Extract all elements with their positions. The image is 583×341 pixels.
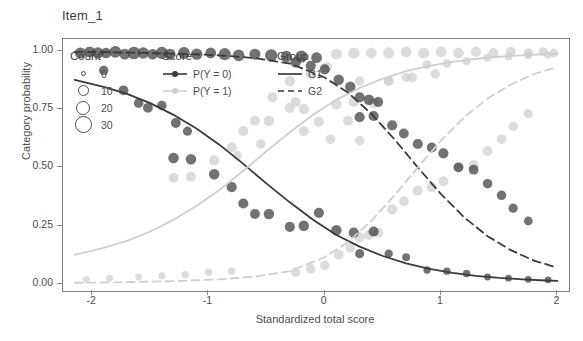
data-point <box>497 134 507 144</box>
data-point <box>509 204 518 213</box>
data-point <box>402 73 411 82</box>
data-point <box>250 209 260 219</box>
data-point <box>348 47 359 58</box>
data-point <box>285 103 295 113</box>
data-point <box>401 46 412 57</box>
group-line-swatch-icon <box>277 85 303 97</box>
y-tick-mark <box>57 166 62 167</box>
legend-item[interactable]: G2 <box>277 82 322 99</box>
count-swatch-icon <box>70 116 96 133</box>
data-point <box>186 172 196 182</box>
legend-score-title: Score <box>162 50 232 62</box>
x-tick-mark <box>207 290 208 295</box>
data-point <box>106 275 113 282</box>
data-point <box>343 116 353 126</box>
legend-item[interactable]: P(Y = 1) <box>162 82 232 99</box>
y-tick-mark <box>57 283 62 284</box>
data-point <box>399 129 409 139</box>
data-point <box>383 47 394 58</box>
data-point <box>436 47 446 57</box>
legend-item[interactable]: 10 <box>70 82 113 99</box>
data-point <box>399 196 409 206</box>
count-swatch-icon <box>70 85 96 96</box>
data-point <box>320 261 330 271</box>
data-point <box>228 267 235 274</box>
data-point <box>256 139 266 149</box>
data-point <box>83 276 90 283</box>
data-point <box>438 176 448 186</box>
data-point <box>524 217 533 226</box>
data-point <box>418 47 429 58</box>
data-point <box>306 264 316 274</box>
data-point <box>264 115 274 125</box>
legend-label: 30 <box>101 119 113 131</box>
data-point <box>355 76 365 86</box>
x-tick-label: -1 <box>187 294 227 306</box>
y-tick-label: 0.50 <box>0 159 53 171</box>
data-point <box>355 249 364 258</box>
x-tick-mark <box>324 290 325 295</box>
x-tick-mark <box>440 290 441 295</box>
legend-label: 20 <box>101 102 113 114</box>
legend-item[interactable]: G1 <box>277 65 322 82</box>
data-point <box>169 173 179 183</box>
data-point <box>471 47 481 57</box>
y-tick-mark <box>57 50 62 51</box>
x-axis-label: Standardized total score <box>62 313 568 325</box>
x-tick-mark <box>91 290 92 295</box>
legend-label: P(Y = 1) <box>193 85 232 97</box>
chart-root: Item_1 Category probability Standardized… <box>0 0 583 341</box>
legend-group: Group G1 G2 <box>277 50 322 99</box>
legend-label: 0 <box>101 68 107 80</box>
data-point <box>413 186 423 196</box>
y-tick-label: 1.00 <box>0 43 53 55</box>
y-tick-label: 0.00 <box>0 276 53 288</box>
legend-label: G1 <box>308 68 322 80</box>
data-point <box>453 48 464 59</box>
x-tick-label: -2 <box>71 294 111 306</box>
data-point <box>438 148 448 158</box>
data-point <box>402 253 410 261</box>
data-point <box>369 226 379 236</box>
legend-score: Score P(Y = 0) P(Y = 1) <box>162 50 232 99</box>
data-point <box>171 118 181 128</box>
data-point <box>285 222 295 232</box>
legend-item[interactable]: 20 <box>70 99 113 116</box>
data-point <box>413 139 423 149</box>
data-point <box>238 198 248 208</box>
data-point <box>469 165 479 175</box>
data-point <box>205 269 212 276</box>
data-point <box>331 49 342 60</box>
score-line-swatch-icon <box>162 85 188 97</box>
legend-count: Count 0 10 20 30 <box>70 50 113 133</box>
data-point <box>373 97 383 107</box>
legend-count-title: Count <box>70 50 113 62</box>
legend-item[interactable]: 30 <box>70 116 113 133</box>
legend-label: G2 <box>308 85 322 97</box>
data-point <box>250 116 260 126</box>
legend-item[interactable]: P(Y = 0) <box>162 65 232 82</box>
x-tick-mark <box>556 290 557 295</box>
data-point <box>267 92 277 102</box>
data-point <box>355 112 365 122</box>
legend-group-title: Group <box>277 50 322 62</box>
data-point <box>299 126 309 136</box>
data-point <box>454 162 464 172</box>
data-point <box>497 191 507 201</box>
data-point <box>135 274 142 281</box>
y-tick-label: 0.25 <box>0 218 53 230</box>
legend-item[interactable]: 0 <box>70 65 113 82</box>
data-point <box>186 154 196 164</box>
legend-label: P(Y = 0) <box>193 68 232 80</box>
data-point <box>483 179 493 189</box>
count-swatch-icon <box>70 71 96 76</box>
data-point <box>314 208 324 218</box>
data-point <box>183 127 192 136</box>
data-point <box>366 48 377 59</box>
data-point <box>265 49 277 61</box>
score-line-swatch-icon <box>162 68 188 80</box>
x-tick-label: 2 <box>536 294 576 306</box>
group-line-swatch-icon <box>277 68 303 80</box>
data-point <box>264 209 274 219</box>
y-tick-mark <box>57 108 62 109</box>
